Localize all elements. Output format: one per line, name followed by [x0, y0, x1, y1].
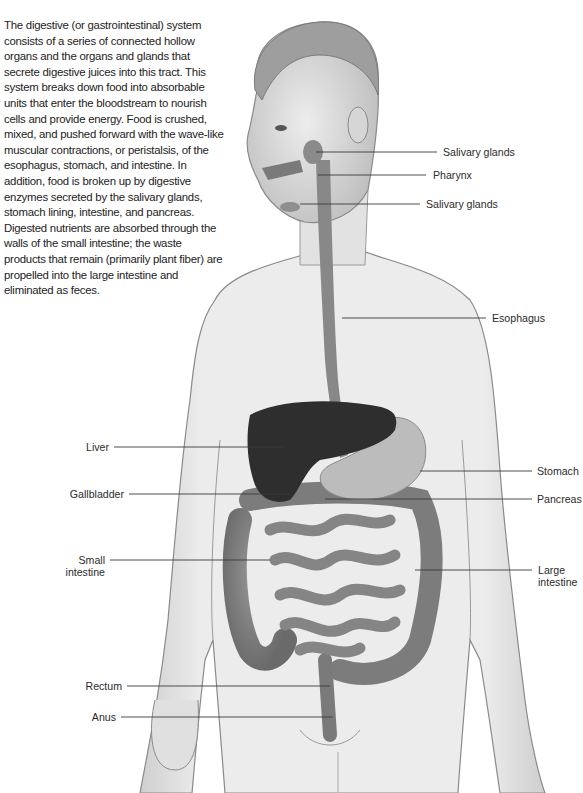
label-small-intestine: Small intestine: [66, 554, 105, 578]
label-liver: Liver: [86, 441, 109, 453]
label-anus: Anus: [92, 711, 116, 723]
digestive-system-illustration: [0, 0, 583, 793]
label-large-intestine: Large intestine: [538, 564, 577, 588]
label-stomach: Stomach: [537, 465, 579, 477]
label-small-intestine-line1: Small: [66, 554, 105, 566]
label-esophagus: Esophagus: [492, 312, 545, 324]
label-pancreas: Pancreas: [537, 493, 582, 505]
head: [247, 22, 378, 223]
label-rectum: Rectum: [86, 680, 123, 692]
label-large-intestine-line2: intestine: [538, 576, 577, 588]
label-gallbladder: Gallbladder: [70, 488, 124, 500]
label-salivary-glands-upper: Salivary glands: [443, 146, 515, 158]
label-salivary-glands-lower: Salivary glands: [426, 198, 498, 210]
label-large-intestine-line1: Large: [538, 564, 577, 576]
label-small-intestine-line2: intestine: [66, 566, 105, 578]
label-pharynx: Pharynx: [433, 169, 472, 181]
